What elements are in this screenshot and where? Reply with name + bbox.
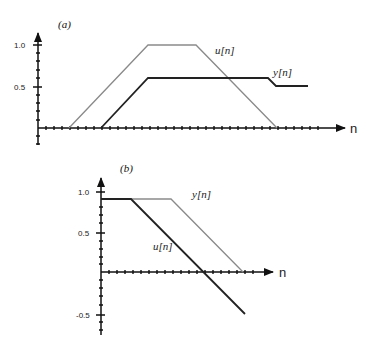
- y-tick-1-a: 1.0: [14, 41, 26, 50]
- figure: (a) 1.0 0.5 n u[n] y[n] (b): [0, 0, 373, 348]
- y-tick-05-a: 0.5: [14, 83, 26, 92]
- label-y-a: y[n]: [272, 66, 292, 78]
- series-u-b: [101, 199, 245, 314]
- chart-b: (b) 1.0 0.5 -0.5 n y[n] u[n]: [76, 162, 286, 335]
- x-axis-label-b: n: [279, 265, 286, 280]
- label-u-a: u[n]: [215, 44, 235, 56]
- y-tick-1-b: 1.0: [78, 188, 90, 197]
- label-y-b: y[n]: [191, 188, 211, 200]
- y-tick-m05-b: -0.5: [76, 311, 90, 320]
- chart-a: (a) 1.0 0.5 n u[n] y[n]: [14, 18, 357, 145]
- y-tick-05-b: 0.5: [78, 229, 90, 238]
- series-u-a: [69, 45, 277, 128]
- series-y-a: [101, 78, 308, 128]
- label-u-b: u[n]: [153, 240, 173, 252]
- panel-a-label: (a): [58, 18, 71, 31]
- series-y-b: [101, 199, 243, 272]
- panel-b-label: (b): [120, 162, 133, 175]
- x-axis-label-a: n: [350, 121, 357, 136]
